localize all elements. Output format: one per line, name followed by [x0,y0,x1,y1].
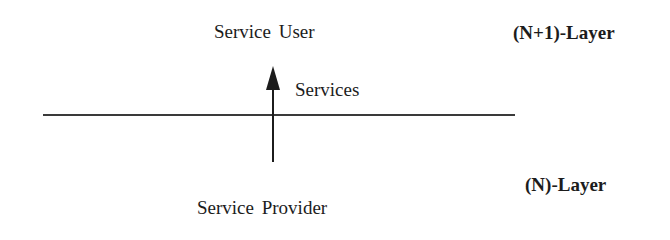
lower-layer-label: (N)-Layer [525,175,606,194]
services-label: Services [295,80,359,99]
upper-layer-label: (N+1)-Layer [513,23,615,42]
service-provider-label: Service Provider [197,198,327,217]
arrow-up-icon [266,66,280,90]
service-user-label: Service User [214,22,315,41]
